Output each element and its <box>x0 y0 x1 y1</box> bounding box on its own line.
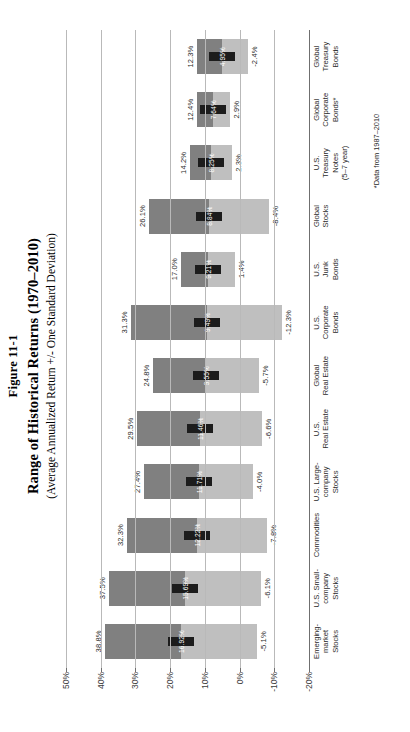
category-label-line: Stocks <box>331 614 340 670</box>
y-axis-tick-mark <box>101 668 102 672</box>
mean-value-label: 12.22% <box>194 524 201 547</box>
mean-value-label: 4.95% <box>219 47 226 66</box>
mean-value-label: 7.64% <box>210 100 217 119</box>
y-axis-tick-label: 30% <box>130 672 140 718</box>
high-value-label: 14.2% <box>179 152 188 174</box>
low-value-label: -6.1% <box>263 578 272 598</box>
category-label: GlobalReal Estate <box>312 348 331 404</box>
figure-title-block: Figure 11-1 Range of Historical Returns … <box>6 0 57 732</box>
figure-title: Range of Historical Returns (1970–2010) <box>25 0 42 732</box>
low-value-label: -6.6% <box>264 419 273 439</box>
high-value-label: 12.4% <box>186 99 195 121</box>
gridline <box>274 30 275 668</box>
gridline <box>66 30 67 668</box>
category-label: GlobalTreasuryBonds <box>312 29 340 85</box>
gridline <box>309 30 310 668</box>
y-axis-tick-mark <box>274 668 275 672</box>
y-axis-tick-label: 10% <box>200 672 210 718</box>
figure-footnote: *Data from 1987–2010 <box>372 114 381 188</box>
high-value-label: 12.3% <box>186 46 195 68</box>
category-label-line: Stocks <box>331 560 340 616</box>
low-value-label: 2.3% <box>234 154 243 172</box>
low-value-label: -5.1% <box>259 631 268 651</box>
category-label-line: Stocks <box>331 454 340 510</box>
category-label: U.S.Real Estate <box>312 401 331 457</box>
mean-value-label: 11.71% <box>195 471 202 493</box>
category-label-line: Global <box>312 29 321 85</box>
bar-group[interactable] <box>66 305 309 340</box>
category-label-line: Bonds* <box>331 82 340 138</box>
low-value-label: -4.0% <box>255 472 264 492</box>
y-axis-tick-mark <box>309 668 310 672</box>
category-label-line: U.S. <box>312 135 321 191</box>
category-axis-labels: Emerging-marketStocksU.S. Small-companyS… <box>312 30 356 668</box>
low-value-label: -12.3% <box>284 310 293 335</box>
y-axis-tick-label: 40% <box>96 672 106 718</box>
mean-value-label: 11.46% <box>196 418 203 440</box>
bar-group[interactable] <box>66 358 309 393</box>
y-axis-tick-label: -10% <box>269 672 279 718</box>
bar-series-container: 38.8%-5.1%16.92%37.5%-6.1%15.69%32.3%-7.… <box>66 30 309 668</box>
gridline <box>205 30 206 668</box>
category-label: U.S. Small-companyStocks <box>312 560 340 616</box>
category-label-line: Bonds <box>331 29 340 85</box>
category-label-line: (5–7 year) <box>340 135 349 191</box>
category-label-line: Corporate <box>321 82 330 138</box>
category-label-line: Treasury <box>321 29 330 85</box>
figure-subtitle: (Average Annualized Return +/- One Stand… <box>45 0 57 732</box>
category-label-line: Real Estate <box>321 401 330 457</box>
category-label: U.S.CorporateBonds <box>312 295 340 351</box>
mean-value-label: 8.84% <box>205 206 212 225</box>
category-label: Emerging-marketStocks <box>312 614 340 670</box>
gridline <box>135 30 136 668</box>
mean-value-label: 16.92% <box>177 630 184 653</box>
category-label-line: U.S. Large- <box>312 454 321 510</box>
y-axis-tick-mark <box>66 668 67 672</box>
bar-group[interactable] <box>66 464 309 499</box>
category-label-line: U.S. <box>312 401 321 457</box>
category-label-line: Global <box>312 348 321 404</box>
category-label: U.S. Large-companyStocks <box>312 454 340 510</box>
category-label-line: U.S. Small- <box>312 560 321 616</box>
category-label-line: U.S. <box>312 295 321 351</box>
gridline <box>101 30 102 668</box>
low-value-label: 1.4% <box>237 260 246 278</box>
category-label: Commodities <box>312 507 321 563</box>
category-label: U.S.TreasuryNotes(5–7 year) <box>312 135 350 191</box>
y-axis-tick-label: -20% <box>304 672 314 718</box>
high-value-label: 24.8% <box>142 365 151 387</box>
bar-group[interactable] <box>66 252 309 287</box>
category-label-line: Junk <box>321 241 330 297</box>
category-label-line: Commodities <box>312 507 321 563</box>
category-label-line: Notes <box>331 135 340 191</box>
mean-value-label: 15.69% <box>182 577 189 600</box>
gridline <box>170 30 171 668</box>
y-axis-tick-mark <box>240 668 241 672</box>
low-value-label: -2.4% <box>250 46 259 66</box>
category-label-line: Bonds <box>331 241 340 297</box>
high-value-label: 32.3% <box>116 524 125 546</box>
figure-number: Figure 11-1 <box>6 0 21 732</box>
category-label-line: company <box>321 454 330 510</box>
category-label-line: Bonds <box>331 295 340 351</box>
mean-value-label: 8.25% <box>207 153 214 172</box>
gridline <box>240 30 241 668</box>
category-label-line: Real Estate <box>321 348 330 404</box>
y-axis-tick-mark <box>205 668 206 672</box>
high-value-label: 31.3% <box>120 311 129 333</box>
category-label-line: market <box>321 614 330 670</box>
category-label-line: Treasury <box>321 135 330 191</box>
category-label-line: Global <box>312 188 321 244</box>
y-axis-tick-label: 0% <box>235 672 245 718</box>
category-label-line: Emerging- <box>312 614 321 670</box>
category-label: GlobalStocks <box>312 188 331 244</box>
figure-footnote-row: *Data from 1987–2010 <box>372 0 381 732</box>
low-value-label: -5.7% <box>261 365 270 385</box>
y-axis-tick-mark <box>170 668 171 672</box>
figure-canvas: Figure 11-1 Range of Historical Returns … <box>0 0 410 732</box>
category-label-line: U.S. <box>312 241 321 297</box>
category-label-line: Stocks <box>321 188 330 244</box>
category-label-line: company <box>321 560 330 616</box>
high-value-label: 29.5% <box>126 418 135 440</box>
low-value-label: -7.8% <box>269 525 278 545</box>
